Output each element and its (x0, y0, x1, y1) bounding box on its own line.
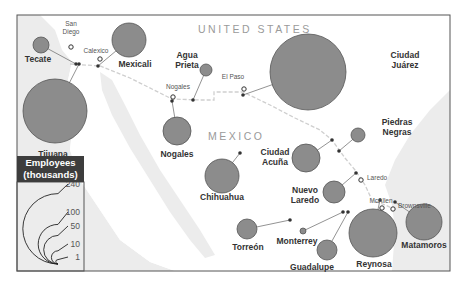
us-city-label-san-diego: San (65, 20, 77, 27)
us-city-marker-brownsville (391, 207, 395, 211)
plant-dot-ciudad-acuna (330, 138, 334, 142)
maquiladora-map: UNITED STATES MEXICO TecateMexicaliTijua… (0, 0, 469, 283)
city-label-ciudad-juarez: Juárez (392, 60, 419, 70)
plant-dot-mexicali (96, 64, 100, 68)
plant-dot-torreon (288, 218, 292, 222)
bubble-guadalupe[interactable] (317, 240, 337, 260)
bubble-agua-prieta[interactable] (200, 64, 212, 76)
plant-dot-nuevo-laredo (354, 171, 358, 175)
city-label-agua-prieta: Agua (176, 50, 198, 60)
legend-title-line2: (thousands) (17, 169, 84, 181)
legend-value-100: 100 (66, 207, 80, 217)
plant-dot-matamoros (393, 200, 397, 204)
plant-dot-chihuahua (238, 151, 242, 155)
us-city-marker-calexico (98, 57, 102, 61)
city-label-ciudad-juarez: Ciudad (391, 50, 420, 60)
bubble-piedras-negras[interactable] (351, 128, 365, 142)
us-city-label-calexico: Calexico (84, 47, 109, 54)
city-label-nogales: Nogales (160, 149, 193, 159)
us-city-label-nogales: Nogales (166, 83, 191, 91)
bubble-tecate[interactable] (33, 37, 49, 53)
country-label-mexico: MEXICO (208, 130, 264, 142)
city-label-chihuahua: Chihuahua (200, 192, 244, 202)
us-city-marker-el-paso (242, 87, 246, 91)
us-city-label-brownsville: Brownsville (398, 202, 431, 209)
bubble-chihuahua[interactable] (205, 159, 239, 193)
city-label-nuevo-laredo: Laredo (291, 195, 319, 205)
legend-title-line1: Employees (17, 157, 84, 169)
bubble-reynosa[interactable] (349, 209, 397, 257)
plant-dot-guadalupe (346, 210, 350, 214)
bubble-mexicali[interactable] (112, 23, 146, 57)
city-label-piedras-negras: Negras (383, 127, 412, 137)
bubble-tijuana[interactable] (23, 79, 87, 143)
bubble-nuevo-laredo[interactable] (323, 181, 345, 203)
city-label-torreon: Torreón (232, 242, 263, 252)
plant-dot-tijuana (77, 62, 81, 66)
city-label-piedras-negras: Piedras (382, 117, 413, 127)
bubble-matamoros[interactable] (406, 204, 442, 240)
us-city-label-san-diego: Diego (63, 28, 80, 36)
city-label-guadalupe: Guadalupe (290, 262, 334, 272)
us-city-marker-mcallen (380, 206, 384, 210)
bubble-ciudad-acuna[interactable] (292, 144, 320, 172)
legend-value-10: 10 (71, 239, 81, 249)
us-city-marker-san-diego (69, 45, 73, 49)
bubble-torreon[interactable] (237, 219, 257, 239)
city-label-monterrey: Monterrey (276, 236, 317, 246)
legend-value-50: 50 (71, 221, 81, 231)
us-city-marker-laredo (359, 178, 363, 182)
bubble-ciudad-juarez[interactable] (270, 34, 346, 110)
legend-header: Employees (thousands) (17, 156, 84, 182)
legend-value-1: 1 (75, 252, 80, 262)
us-city-label-el-paso: El Paso (222, 73, 245, 80)
us-city-marker-nogales (171, 95, 175, 99)
city-label-mexicali: Mexicali (118, 59, 151, 69)
city-label-reynosa: Reynosa (356, 259, 392, 269)
country-label-united-states: UNITED STATES (198, 23, 312, 35)
plant-dot-monterrey (341, 210, 345, 214)
city-label-nuevo-laredo: Nuevo (292, 185, 318, 195)
city-label-tecate: Tecate (25, 54, 52, 64)
plant-dot-ciudad-juarez (241, 93, 245, 97)
bubble-nogales[interactable] (163, 117, 191, 145)
bubble-monterrey[interactable] (300, 228, 306, 234)
city-label-ciudad-acuna: Ciudad (261, 147, 290, 157)
city-label-agua-prieta: Prieta (175, 60, 199, 70)
us-city-label-mcallen: McAllen (369, 197, 393, 204)
plant-dot-piedras-negras (337, 149, 341, 153)
us-city-label-laredo: Laredo (367, 174, 388, 181)
city-label-ciudad-acuna: Acuña (262, 157, 288, 167)
plant-dot-agua-prieta (191, 98, 195, 102)
city-label-matamoros: Matamoros (401, 240, 447, 250)
plant-dot-nogales (170, 99, 174, 103)
